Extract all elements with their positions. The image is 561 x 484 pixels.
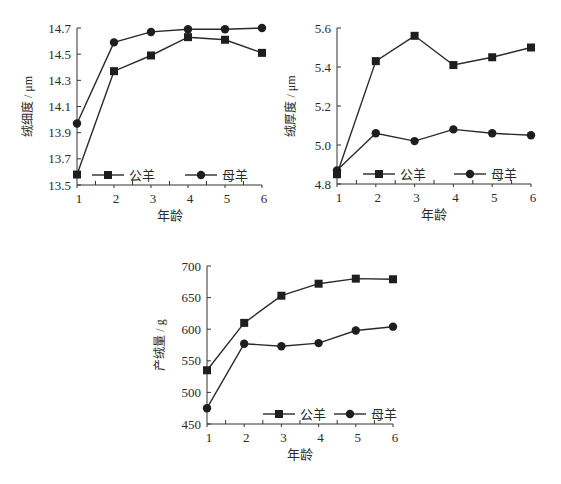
series-ram: [333, 32, 535, 178]
x-tick-label: 4: [452, 190, 459, 205]
y-tick-label: 650: [182, 290, 202, 305]
circle-marker-icon: [449, 125, 457, 133]
square-marker-icon: [147, 51, 155, 59]
x-tick-label: 3: [150, 191, 157, 206]
y-axis-label: 绒细度 / μm: [20, 75, 35, 137]
square-marker-icon: [240, 319, 248, 327]
circle-marker-icon: [527, 131, 535, 139]
chart-2: 4.85.05.25.45.6123456年龄绒厚度 / μm公羊母羊: [283, 21, 537, 223]
y-tick-label: 14.7: [48, 21, 71, 36]
legend-label: 公羊: [300, 407, 326, 422]
square-marker-icon: [389, 275, 397, 283]
legend-circle-icon: [197, 171, 205, 179]
x-axis-label: 年龄: [287, 447, 313, 462]
square-marker-icon: [73, 171, 81, 179]
legend-square-icon: [275, 410, 283, 418]
x-tick-label: 2: [375, 190, 382, 205]
legend-label: 母羊: [371, 407, 397, 422]
series-line: [337, 36, 531, 175]
y-tick-label: 14.3: [48, 73, 71, 88]
y-tick-label: 4.8: [315, 177, 331, 192]
square-marker-icon: [277, 292, 285, 300]
x-tick-label: 2: [243, 430, 250, 445]
y-tick-label: 5.0: [315, 138, 331, 153]
legend: 公羊母羊: [263, 407, 397, 422]
y-tick-label: 500: [182, 385, 202, 400]
y-axis-label: 绒厚度 / μm: [283, 75, 298, 137]
x-tick-label: 6: [392, 430, 399, 445]
y-tick-label: 5.6: [315, 21, 332, 36]
circle-marker-icon: [203, 404, 211, 412]
circle-marker-icon: [110, 38, 118, 46]
x-axis-label: 年龄: [157, 208, 183, 223]
square-marker-icon: [221, 36, 229, 44]
circle-marker-icon: [240, 340, 248, 348]
legend: 公羊母羊: [363, 167, 517, 182]
series-ewe: [203, 322, 397, 412]
square-marker-icon: [449, 61, 457, 69]
x-tick-label: 4: [317, 430, 324, 445]
legend: 公羊母羊: [92, 168, 248, 183]
x-tick-label: 4: [187, 191, 194, 206]
legend-label: 公羊: [400, 167, 426, 182]
square-marker-icon: [315, 280, 323, 288]
series-ewe: [73, 24, 266, 128]
circle-marker-icon: [314, 339, 322, 347]
circle-marker-icon: [389, 322, 397, 330]
circle-marker-icon: [277, 342, 285, 350]
y-tick-label: 450: [182, 417, 202, 432]
y-tick-label: 700: [182, 259, 202, 274]
square-marker-icon: [184, 33, 192, 41]
x-tick-label: 6: [530, 190, 537, 205]
x-tick-label: 6: [261, 191, 268, 206]
circle-marker-icon: [410, 137, 418, 145]
legend-circle-icon: [466, 170, 474, 178]
x-tick-label: 5: [491, 190, 498, 205]
chart-3: 450500550600650700123456年龄产绒量 / g公羊母羊: [153, 259, 399, 463]
circle-marker-icon: [258, 24, 266, 32]
circle-marker-icon: [333, 166, 341, 174]
square-marker-icon: [372, 57, 380, 65]
series-line: [207, 279, 393, 371]
circle-marker-icon: [73, 119, 81, 127]
square-marker-icon: [258, 49, 266, 57]
circle-marker-icon: [184, 25, 192, 33]
square-marker-icon: [352, 275, 360, 283]
x-tick-label: 1: [336, 190, 343, 205]
series-line: [207, 327, 393, 409]
series-ram: [73, 33, 266, 178]
legend-circle-icon: [346, 410, 354, 418]
y-tick-label: 14.5: [48, 47, 71, 62]
square-marker-icon: [488, 53, 496, 61]
legend-square-icon: [104, 171, 112, 179]
x-tick-label: 5: [355, 430, 362, 445]
square-marker-icon: [411, 32, 419, 40]
circle-marker-icon: [488, 129, 496, 137]
square-marker-icon: [527, 44, 535, 52]
series-line: [77, 37, 262, 174]
series-ram: [203, 275, 397, 375]
y-tick-label: 5.4: [315, 60, 332, 75]
square-marker-icon: [110, 67, 118, 75]
y-tick-label: 13.9: [48, 125, 71, 140]
circle-marker-icon: [221, 25, 229, 33]
chart-figure: 13.513.713.914.114.314.514.7123456年龄绒细度 …: [0, 0, 561, 484]
x-tick-label: 1: [206, 430, 213, 445]
y-tick-label: 13.5: [48, 178, 71, 193]
y-tick-label: 550: [182, 353, 202, 368]
y-axis-label: 产绒量 / g: [153, 319, 167, 370]
x-tick-label: 1: [76, 191, 83, 206]
figure: 13.513.713.914.114.314.514.7123456年龄绒细度 …: [0, 0, 561, 484]
square-marker-icon: [203, 366, 211, 374]
circle-marker-icon: [352, 326, 360, 334]
x-axis-label: 年龄: [421, 207, 447, 222]
circle-marker-icon: [147, 28, 155, 36]
legend-label: 母羊: [491, 167, 517, 182]
y-tick-label: 13.7: [48, 151, 71, 166]
chart-1: 13.513.713.914.114.314.514.7123456年龄绒细度 …: [20, 21, 268, 224]
y-tick-label: 14.1: [48, 99, 71, 114]
legend-label: 公羊: [129, 168, 155, 183]
circle-marker-icon: [372, 129, 380, 137]
series-line: [337, 129, 531, 170]
x-tick-label: 3: [280, 430, 287, 445]
